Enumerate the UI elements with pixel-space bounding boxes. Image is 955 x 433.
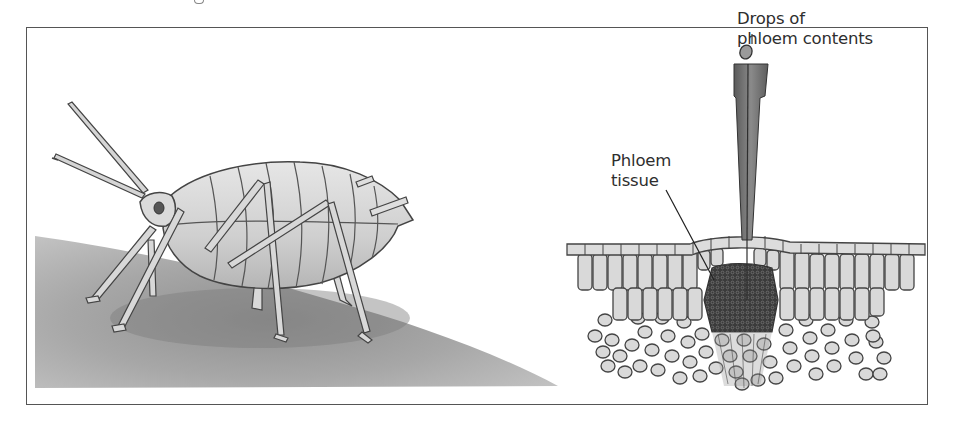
aphid-panel [35,102,558,388]
label-phloem-tissue: Phloem tissue [611,151,671,191]
aphid-stylet [734,64,768,240]
label-drops-of-phloem-contents: Drops of phloem contents [737,9,873,49]
figure-artwork [0,0,955,433]
label-line: Phloem [611,151,671,171]
label-line: Drops of [737,9,873,29]
label-line: tissue [611,171,671,191]
aphid-eye [154,202,164,214]
aphid-antennae [54,102,148,198]
phloem-tissue [704,264,778,333]
label-line: phloem contents [737,29,873,49]
cross-section-panel [567,34,925,390]
